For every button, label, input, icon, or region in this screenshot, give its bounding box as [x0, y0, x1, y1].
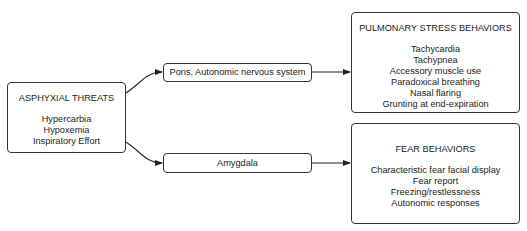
node-item: Freezing/restlessness [352, 187, 519, 198]
fear-behaviors-node: FEAR BEHAVIORS Characteristic fear facia… [351, 123, 520, 224]
node-title: ASPHYXIAL THREATS [8, 93, 125, 104]
edge-threats-to-pons [126, 72, 162, 93]
node-title: FEAR BEHAVIORS [352, 144, 519, 155]
node-title: PULMONARY STRESS BEHAVIORS [352, 23, 519, 34]
node-item: Autonomic responses [352, 198, 519, 209]
node-item: Accessory muscle use [352, 66, 519, 77]
node-item: Paradoxical breathing [352, 77, 519, 88]
node-item: Hypoxemia [8, 125, 125, 136]
node-item: Grunting at end-expiration [352, 99, 519, 110]
node-item: Tachycardia [352, 44, 519, 55]
amygdala-node: Amygdala [163, 153, 312, 173]
node-item: Nasal flaring [352, 88, 519, 99]
node-item: Characteristic fear facial display [352, 165, 519, 176]
node-label: Pons, Autonomic nervous system [170, 67, 306, 77]
pons-autonomic-node: Pons, Autonomic nervous system [163, 63, 312, 82]
node-item: Hypercarbia [8, 114, 125, 125]
asphyxial-threats-node: ASPHYXIAL THREATS Hypercarbia Hypoxemia … [7, 82, 126, 153]
node-item: Fear report [352, 176, 519, 187]
pulmonary-stress-behaviors-node: PULMONARY STRESS BEHAVIORS Tachycardia T… [351, 12, 520, 113]
node-label: Amygdala [217, 158, 258, 168]
node-item: Inspiratory Effort [8, 136, 125, 147]
edge-threats-to-amygdala [126, 142, 162, 163]
node-item: Tachypnea [352, 55, 519, 66]
